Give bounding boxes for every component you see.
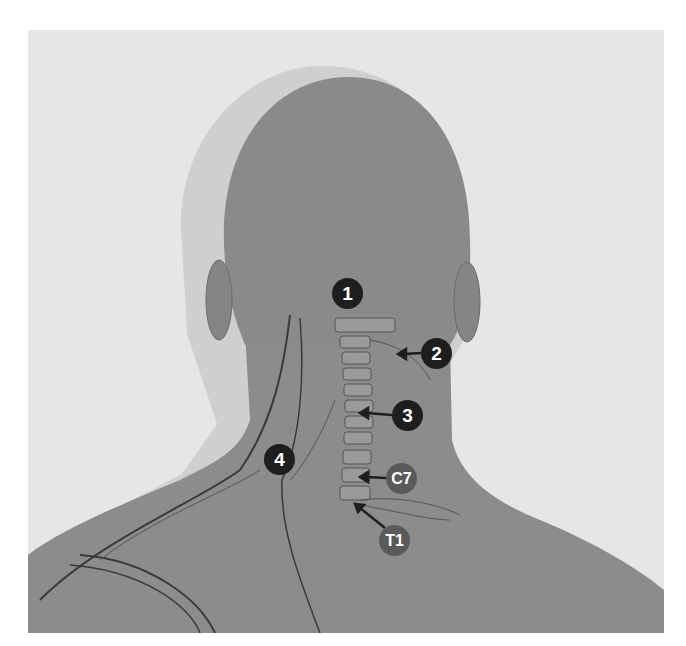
right-ear (454, 262, 480, 342)
marker-4: 4 (264, 444, 295, 475)
anatomy-illustration (28, 30, 664, 633)
illustration-frame: 1 2 3 4 C7 T1 (28, 30, 664, 633)
marker-3: 3 (392, 400, 423, 431)
marker-1: 1 (332, 278, 363, 309)
marker-2: 2 (421, 338, 452, 369)
marker-t1: T1 (379, 525, 410, 556)
left-ear (206, 260, 232, 340)
marker-c7: C7 (386, 463, 417, 494)
